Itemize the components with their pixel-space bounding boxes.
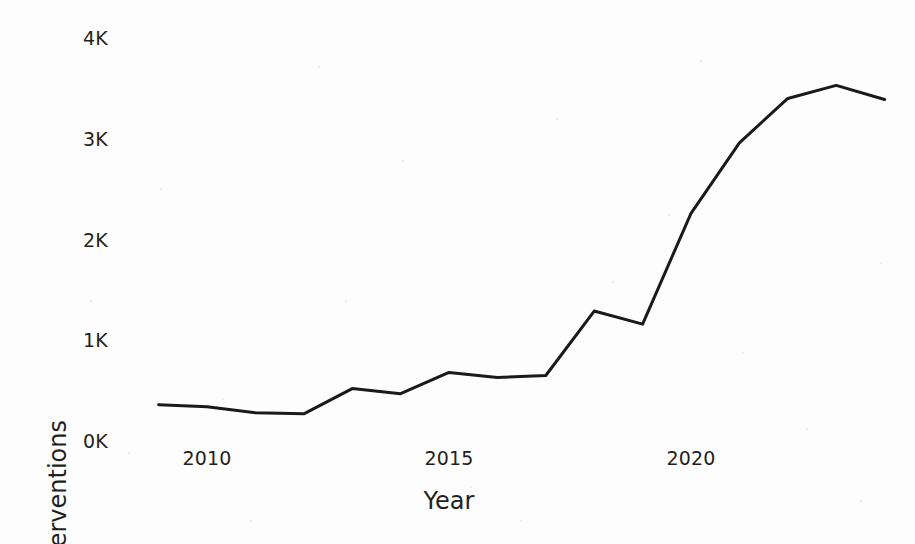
x-tick-label-2015: 2015 [424,447,473,469]
y-tick-label-0k: 0K [72,430,108,452]
y-axis-title: New harmful interventions [44,420,72,544]
data-series-line [159,85,885,413]
y-tick-label-4k: 4K [72,27,108,49]
x-tick-label-2020: 2020 [666,447,715,469]
y-tick-label-3k: 3K [72,128,108,150]
line-chart: 4K 3K 2K 1K 0K 2010 2015 2020 New harmfu… [0,0,915,544]
x-axis-title: Year [424,487,475,515]
x-tick-label-2010: 2010 [182,447,231,469]
y-tick-label-2k: 2K [72,229,108,251]
y-tick-label-1k: 1K [72,329,108,351]
